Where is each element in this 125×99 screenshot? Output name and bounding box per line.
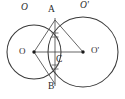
label-point-c: C — [56, 55, 62, 65]
label-center-o: O — [19, 47, 26, 56]
label-center-o-prime: O' — [91, 46, 99, 55]
geometry-figure: O O' A B C O O' — [0, 0, 125, 99]
segment-A-to-O-prime — [55, 20, 83, 52]
label-circle-right: O' — [80, 1, 89, 11]
label-point-a: A — [48, 5, 55, 15]
center-dot-O-prime — [81, 50, 84, 53]
center-dot-O — [32, 50, 35, 53]
label-circle-left: O — [21, 3, 28, 13]
label-point-b: B — [48, 82, 54, 92]
